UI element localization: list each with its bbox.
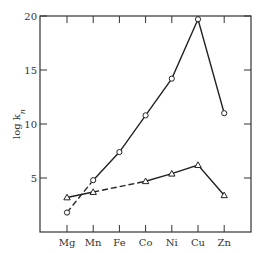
x-axis-ticks xyxy=(67,16,224,232)
y-tick-label: 15 xyxy=(24,65,37,76)
x-tick-label: Mn xyxy=(85,237,102,248)
circle-marker xyxy=(169,76,174,81)
circle-marker xyxy=(91,178,96,183)
series-markers xyxy=(64,17,228,216)
y-tick-label: 20 xyxy=(24,11,37,22)
series-line-circles xyxy=(93,19,224,180)
line-chart: 5101520 MgMnFeCoNiCuZn log kn xyxy=(0,0,262,253)
x-tick-label: Ni xyxy=(166,237,178,248)
series-line-triangles xyxy=(146,165,225,195)
x-axis-tick-labels: MgMnFeCoNiCuZn xyxy=(59,237,232,248)
circle-marker xyxy=(117,149,122,154)
x-tick-label: Zn xyxy=(218,237,232,248)
series-line-triangles xyxy=(93,181,145,192)
x-tick-label: Co xyxy=(139,237,153,248)
y-tick-label: 5 xyxy=(31,173,37,184)
y-axis-tick-labels: 5101520 xyxy=(24,11,37,184)
x-tick-label: Cu xyxy=(191,237,206,248)
x-tick-label: Mg xyxy=(59,237,76,248)
y-tick-label: 10 xyxy=(24,119,37,130)
triangle-marker xyxy=(195,162,201,168)
circle-marker xyxy=(64,210,69,215)
x-tick-label: Fe xyxy=(113,237,125,248)
plot-frame xyxy=(40,16,251,232)
circle-marker xyxy=(222,111,227,116)
circle-marker xyxy=(195,17,200,22)
circle-marker xyxy=(143,113,148,118)
